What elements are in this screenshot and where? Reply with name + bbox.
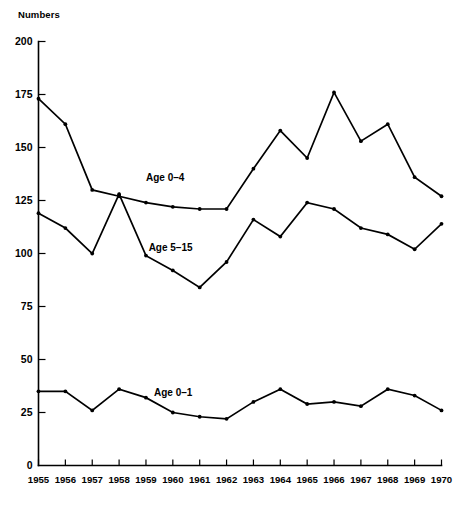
x-tick-label: 1955	[28, 474, 50, 485]
y-tick-label: 50	[21, 353, 33, 365]
data-point	[332, 400, 336, 404]
data-point	[252, 167, 256, 171]
series-2	[37, 192, 444, 289]
series-label-3: Age 0–1	[154, 387, 193, 398]
x-tick-label: 1962	[216, 474, 237, 485]
data-point	[386, 233, 390, 237]
data-point	[198, 415, 202, 419]
y-tick-label: 150	[15, 141, 33, 153]
data-point	[359, 139, 363, 143]
x-tick-label: 1957	[82, 474, 103, 485]
data-point	[413, 175, 417, 179]
series-label-1: Age 0–4	[146, 172, 185, 183]
data-point	[225, 417, 229, 421]
series-3	[37, 387, 444, 420]
data-point	[63, 389, 67, 393]
data-point	[440, 222, 444, 226]
data-point	[440, 408, 444, 412]
x-tick-label: 1968	[377, 474, 399, 485]
data-point	[359, 226, 363, 230]
x-tick-label: 1966	[323, 474, 344, 485]
data-point	[63, 122, 67, 126]
x-tick-label: 1958	[108, 474, 130, 485]
y-tick-label: 125	[15, 194, 33, 206]
x-tick-label: 1967	[350, 474, 371, 485]
x-tick-label: 1961	[189, 474, 211, 485]
data-point	[278, 235, 282, 239]
x-tick-label: 1963	[243, 474, 264, 485]
data-point	[305, 201, 309, 205]
data-point	[278, 387, 282, 391]
data-point	[117, 387, 121, 391]
data-point	[440, 194, 444, 198]
y-tick-label: 200	[15, 35, 33, 47]
data-point	[278, 129, 282, 133]
y-tick-label: 100	[15, 247, 33, 259]
data-point	[386, 122, 390, 126]
data-point	[90, 408, 94, 412]
data-point	[305, 402, 309, 406]
data-point	[144, 201, 148, 205]
data-point	[90, 252, 94, 256]
data-point	[90, 188, 94, 192]
series-line	[39, 194, 442, 287]
data-point	[413, 394, 417, 398]
y-axis-title: Numbers	[18, 9, 60, 20]
data-point	[225, 260, 229, 264]
series-line	[39, 92, 442, 209]
x-tick-label: 1964	[270, 474, 292, 485]
data-point	[171, 411, 175, 415]
data-point	[37, 389, 41, 393]
data-point	[37, 211, 41, 215]
x-axis-ticks: 1955195619571958195919601961196219631964…	[28, 460, 452, 485]
data-point	[144, 396, 148, 400]
series-1	[37, 90, 444, 210]
data-point	[198, 207, 202, 211]
data-point	[117, 192, 121, 196]
data-point	[332, 90, 336, 94]
x-tick-label: 1969	[404, 474, 425, 485]
data-point	[144, 254, 148, 258]
data-point	[252, 400, 256, 404]
data-point	[171, 269, 175, 273]
x-tick-label: 1956	[55, 474, 76, 485]
data-point	[359, 404, 363, 408]
data-point	[198, 286, 202, 290]
x-tick-label: 1970	[431, 474, 452, 485]
x-tick-label: 1960	[162, 474, 183, 485]
y-tick-label: 175	[15, 88, 33, 100]
series-line	[39, 389, 442, 419]
series-group	[37, 90, 444, 420]
x-tick-label: 1965	[296, 474, 318, 485]
data-point	[332, 207, 336, 211]
series-label-2: Age 5–15	[149, 242, 193, 253]
x-tick-label: 1959	[135, 474, 156, 485]
chart-container: Numbers 0255075100125150175200 195519561…	[0, 0, 466, 511]
data-point	[63, 226, 67, 230]
data-point	[171, 205, 175, 209]
line-chart: 0255075100125150175200 19551956195719581…	[0, 0, 466, 511]
data-point	[386, 387, 390, 391]
y-tick-label: 25	[21, 406, 33, 418]
data-point	[305, 156, 309, 160]
data-point	[225, 207, 229, 211]
data-point	[413, 247, 417, 251]
y-tick-label: 0	[27, 459, 33, 471]
data-point	[252, 218, 256, 222]
y-tick-label: 75	[21, 300, 33, 312]
data-point	[37, 97, 41, 101]
